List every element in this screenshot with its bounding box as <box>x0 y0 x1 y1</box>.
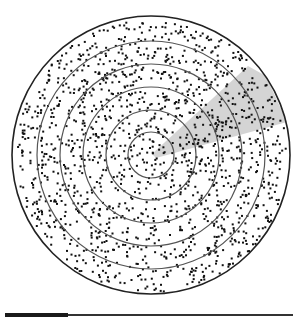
concentric-rings <box>37 41 265 269</box>
scale-bar-thick-segment <box>5 313 68 317</box>
gray-beam <box>152 66 287 158</box>
scale-bar-thin-segment <box>68 314 293 316</box>
concentric-ring-diagram <box>0 0 300 317</box>
stipple-dots <box>17 22 287 293</box>
